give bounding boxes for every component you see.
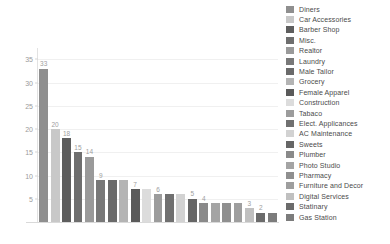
- legend-item-label: Digital Services: [299, 193, 349, 200]
- legend-item[interactable]: Realtor: [286, 46, 390, 56]
- bar-value-label: 3: [248, 201, 252, 208]
- legend-swatch-icon: [286, 16, 294, 23]
- bar[interactable]: [119, 180, 128, 222]
- legend-swatch-icon: [286, 99, 294, 106]
- legend-item-label: Elect. Applicances: [299, 120, 358, 127]
- bar-slot[interactable]: 15: [74, 152, 83, 222]
- bar[interactable]: [51, 129, 60, 222]
- bar[interactable]: [222, 203, 231, 222]
- bar-value-label: 4: [202, 196, 206, 203]
- bar-value-label: 7: [133, 182, 137, 189]
- legend-swatch-icon: [286, 120, 294, 127]
- bar[interactable]: [85, 157, 94, 222]
- legend-swatch-icon: [286, 130, 294, 137]
- legend-item-label: Car Accessories: [299, 16, 351, 23]
- bar-value-label: 6: [156, 187, 160, 194]
- bar[interactable]: [211, 203, 220, 222]
- bar-value-label: 9: [99, 173, 103, 180]
- bar[interactable]: [39, 69, 48, 222]
- bar-slot[interactable]: 5: [188, 199, 197, 222]
- bar-value-label: 18: [63, 131, 70, 138]
- bar[interactable]: [256, 213, 265, 222]
- legend-item[interactable]: Grocery: [286, 77, 390, 87]
- bar-slot[interactable]: [222, 203, 231, 222]
- bar-value-label: 2: [259, 205, 263, 212]
- bar[interactable]: [74, 152, 83, 222]
- legend-item[interactable]: Plumber: [286, 149, 390, 159]
- bar-slot[interactable]: [234, 203, 243, 222]
- legend-item-label: Statinary: [299, 203, 328, 210]
- bar-value-label: 14: [86, 149, 93, 156]
- bar[interactable]: [154, 194, 163, 222]
- bar[interactable]: [96, 180, 105, 222]
- bar[interactable]: [188, 199, 197, 222]
- bar-value-label: 33: [40, 61, 47, 68]
- bar-slot[interactable]: 3: [245, 208, 254, 222]
- legend-item[interactable]: Pharmacy: [286, 170, 390, 180]
- legend-item-label: Male Tailor: [299, 68, 334, 75]
- bar[interactable]: [108, 180, 117, 222]
- legend-item[interactable]: Female Apparel: [286, 87, 390, 97]
- legend-swatch-icon: [286, 172, 294, 179]
- legend-item-label: Diners: [299, 6, 320, 13]
- bar-slot[interactable]: 14: [85, 157, 94, 222]
- legend-item[interactable]: Male Tailor: [286, 66, 390, 76]
- legend-swatch-icon: [286, 78, 294, 85]
- legend-swatch-icon: [286, 26, 294, 33]
- legend-item[interactable]: Laundry: [286, 56, 390, 66]
- bar[interactable]: [131, 189, 140, 222]
- bar-slot[interactable]: 2: [256, 213, 265, 222]
- bar-slot[interactable]: 9: [96, 180, 105, 222]
- legend-item[interactable]: Diners: [286, 4, 390, 14]
- legend-item[interactable]: Photo Studio: [286, 160, 390, 170]
- legend-item-label: Construction: [299, 99, 340, 106]
- bar-slot[interactable]: [108, 180, 117, 222]
- legend-swatch-icon: [286, 151, 294, 158]
- bar[interactable]: [199, 203, 208, 222]
- bar-slot[interactable]: 7: [131, 189, 140, 222]
- bar[interactable]: [62, 138, 71, 222]
- bar-slot[interactable]: [142, 189, 151, 222]
- legend-item[interactable]: Barber Shop: [286, 25, 390, 35]
- bar-slot[interactable]: 18: [62, 138, 71, 222]
- legend-item[interactable]: Gas Station: [286, 212, 390, 222]
- legend-swatch-icon: [286, 141, 294, 148]
- bar-slot[interactable]: [119, 180, 128, 222]
- legend-swatch-icon: [286, 203, 294, 210]
- legend-swatch-icon: [286, 89, 294, 96]
- legend-item[interactable]: Furniture and Decor: [286, 181, 390, 191]
- bar-slot[interactable]: [176, 194, 185, 222]
- y-axis-tick-label: 30: [25, 79, 33, 86]
- x-axis-baseline: [26, 222, 279, 223]
- bar-slot[interactable]: 20: [51, 129, 60, 222]
- bar[interactable]: [142, 189, 151, 222]
- legend-item[interactable]: Car Accessories: [286, 14, 390, 24]
- legend-item[interactable]: Tabaco: [286, 108, 390, 118]
- bar[interactable]: [165, 194, 174, 222]
- bar-slot[interactable]: [268, 213, 277, 222]
- bar-slot[interactable]: 4: [199, 203, 208, 222]
- legend-item[interactable]: Statinary: [286, 201, 390, 211]
- bar-slot[interactable]: [165, 194, 174, 222]
- bar[interactable]: [268, 213, 277, 222]
- bar-slot[interactable]: 6: [154, 194, 163, 222]
- plot-area: 5101520253035 33201815149765432: [38, 50, 278, 222]
- bar-slot[interactable]: [211, 203, 220, 222]
- bar[interactable]: [245, 208, 254, 222]
- legend-item[interactable]: AC Maintenance: [286, 129, 390, 139]
- bar[interactable]: [176, 194, 185, 222]
- legend-swatch-icon: [286, 193, 294, 200]
- legend-item-label: Misc.: [299, 37, 316, 44]
- legend-item[interactable]: Construction: [286, 98, 390, 108]
- legend-swatch-icon: [286, 37, 294, 44]
- legend-item[interactable]: Misc.: [286, 35, 390, 45]
- chart-legend: DinersCar AccessoriesBarber ShopMisc.Rea…: [286, 4, 390, 222]
- legend-item[interactable]: Sweets: [286, 139, 390, 149]
- legend-swatch-icon: [286, 6, 294, 13]
- bar-slot[interactable]: 33: [39, 69, 48, 222]
- legend-item[interactable]: Elect. Applicances: [286, 118, 390, 128]
- legend-item[interactable]: Digital Services: [286, 191, 390, 201]
- bar-value-label: 15: [74, 145, 81, 152]
- bar[interactable]: [234, 203, 243, 222]
- legend-item-label: Tabaco: [299, 110, 322, 117]
